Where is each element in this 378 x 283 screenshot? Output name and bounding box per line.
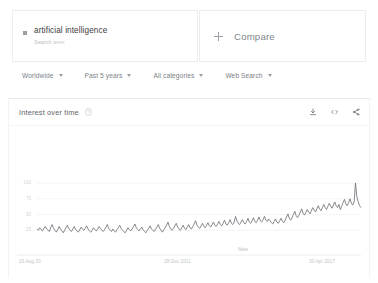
y-axis-tick-label: 100 xyxy=(15,180,31,185)
series-marker-icon xyxy=(23,31,27,35)
filter-search-type[interactable]: Web Search xyxy=(225,72,271,79)
filter-time-range[interactable]: Past 5 years xyxy=(85,72,132,79)
google-trends-page: artificial intelligence Search term Comp… xyxy=(0,0,378,283)
x-axis-tick-label: 26 Aug 20 xyxy=(19,259,41,264)
help-circle-icon[interactable]: ? xyxy=(85,108,93,116)
compare-inner: Compare xyxy=(214,31,275,42)
chart-actions xyxy=(309,108,360,116)
share-icon[interactable] xyxy=(352,108,360,116)
filter-time-range-label: Past 5 years xyxy=(85,72,123,79)
x-axis-tick-label: 30 Apr 2017 xyxy=(309,259,335,264)
x-axis-tick-label: 28 Dec 2011 xyxy=(164,259,191,264)
filter-search-type-label: Web Search xyxy=(225,72,262,79)
chevron-down-icon xyxy=(199,74,203,77)
chevron-down-icon xyxy=(268,74,272,77)
chevron-down-icon xyxy=(127,74,131,77)
search-term-text: artificial intelligence Search term xyxy=(34,26,107,45)
compare-label: Compare xyxy=(234,31,275,42)
filter-category-label: All categories xyxy=(153,72,194,79)
y-axis-tick-label: 25 xyxy=(15,227,31,232)
chart-title: Interest over time xyxy=(19,108,79,117)
chart-plot-area[interactable]: 100755025 26 Aug 2028 Dec 201130 Apr 201… xyxy=(9,126,369,278)
filter-category[interactable]: All categories xyxy=(153,72,203,79)
search-term-subtitle: Search term xyxy=(34,39,107,46)
search-term-title: artificial intelligence xyxy=(34,26,107,36)
search-term-card[interactable]: artificial intelligence Search term xyxy=(12,10,198,62)
filter-location-label: Worldwide xyxy=(22,72,54,79)
y-axis-tick-label: 75 xyxy=(15,196,31,201)
filter-bar: Worldwide Past 5 years All categories We… xyxy=(22,72,294,79)
interest-over-time-card: Interest over time ? xyxy=(8,98,370,278)
download-icon[interactable] xyxy=(309,108,317,116)
search-term-cards: artificial intelligence Search term Comp… xyxy=(12,10,366,62)
search-term-row: artificial intelligence Search term xyxy=(23,26,107,45)
chevron-down-icon xyxy=(59,74,63,77)
chart-header: Interest over time ? xyxy=(9,99,369,126)
plus-icon xyxy=(214,32,223,41)
y-axis-tick-label: 50 xyxy=(15,212,31,217)
compare-card[interactable]: Compare xyxy=(199,10,366,62)
note-annotation: Note xyxy=(238,247,248,252)
trends-line-chart xyxy=(9,126,371,278)
filter-location[interactable]: Worldwide xyxy=(22,72,63,79)
embed-icon[interactable] xyxy=(330,108,339,116)
